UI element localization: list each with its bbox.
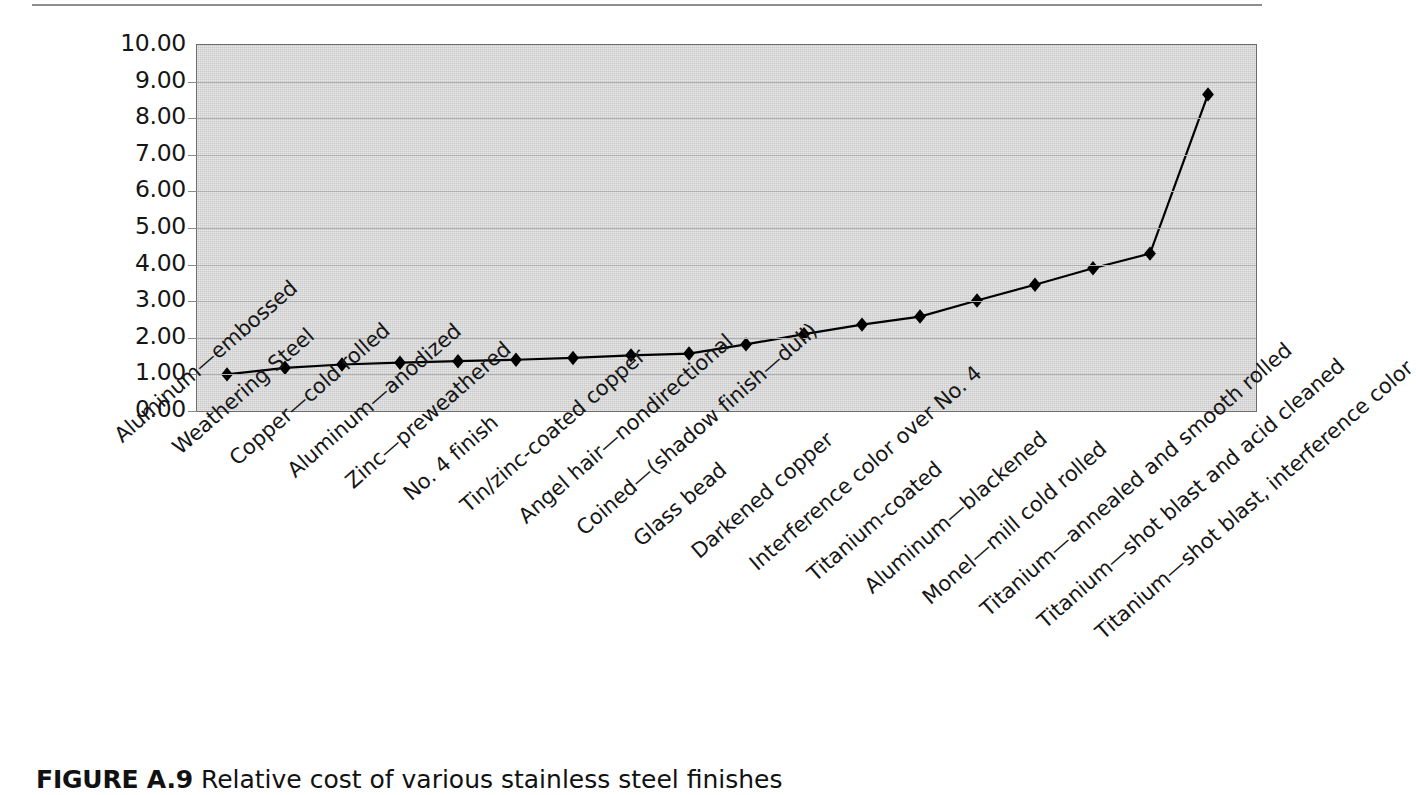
y-tick-label: 3.00	[104, 288, 186, 312]
x-axis-category-labels: Aluminum—embossedWeathering SteelCopper—…	[0, 410, 1274, 730]
gridline	[197, 118, 1256, 119]
y-tick-mark	[188, 82, 197, 83]
data-point-marker	[452, 354, 464, 368]
gridline	[197, 155, 1256, 156]
y-tick-mark	[188, 265, 197, 266]
y-tick-mark	[188, 191, 197, 192]
y-tick-label: 5.00	[104, 215, 186, 239]
y-tick-mark	[188, 301, 197, 302]
y-tick-label: 6.00	[104, 178, 186, 202]
y-tick-label: 8.00	[104, 105, 186, 129]
y-tick-mark	[188, 228, 197, 229]
data-point-marker	[1144, 246, 1156, 260]
data-point-marker	[740, 337, 752, 351]
y-tick-label: 2.00	[104, 325, 186, 349]
figure-caption: FIGURE A.9 Relative cost of various stai…	[36, 766, 1236, 794]
data-point-marker	[1087, 261, 1099, 275]
gridline	[197, 82, 1256, 83]
data-point-marker	[1202, 87, 1214, 101]
y-tick-mark	[188, 338, 197, 339]
gridline	[197, 228, 1256, 229]
data-point-marker	[567, 351, 579, 365]
data-point-marker	[1029, 278, 1041, 292]
gridline	[197, 191, 1256, 192]
y-tick-label: 9.00	[104, 69, 186, 93]
page-top-rule	[32, 4, 1262, 6]
gridline	[197, 374, 1256, 375]
figure-caption-text: Relative cost of various stainless steel…	[201, 765, 783, 794]
y-tick-label: 10.00	[104, 32, 186, 56]
y-tick-mark	[188, 118, 197, 119]
data-point-marker	[914, 309, 926, 323]
data-point-marker	[856, 317, 868, 331]
figure-caption-label: FIGURE A.9	[36, 765, 193, 794]
y-axis-tick-labels: 10.009.008.007.006.005.004.003.002.001.0…	[104, 28, 186, 428]
y-tick-label: 4.00	[104, 252, 186, 276]
y-tick-mark	[188, 155, 197, 156]
gridline	[197, 265, 1256, 266]
y-tick-label: 7.00	[104, 142, 186, 166]
gridline	[197, 301, 1256, 302]
